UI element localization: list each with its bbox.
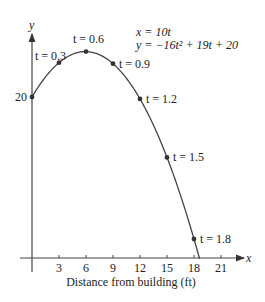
x-axis-letter: x	[245, 251, 252, 265]
x-tick-label: 9	[110, 261, 116, 275]
data-point	[138, 97, 143, 102]
x-tick-label: 6	[83, 261, 89, 275]
point-label: t = 1.8	[200, 232, 231, 246]
equation-x: x = 10t	[135, 25, 171, 39]
x-tick-label: 3	[56, 261, 62, 275]
equation-y: y = −16t² + 19t + 20	[135, 38, 238, 52]
point-label: t = 1.5	[173, 150, 204, 164]
y-axis-letter: y	[28, 18, 35, 32]
x-tick-label: 21	[215, 261, 227, 275]
data-point	[84, 49, 89, 54]
y-tick-label: 20	[15, 90, 27, 104]
x-tick-label: 18	[188, 261, 200, 275]
data-point	[192, 237, 197, 242]
data-points: t = 0.3t = 0.6t = 0.9t = 1.2t = 1.5t = 1…	[30, 32, 232, 246]
point-label: t = 0.6	[73, 32, 104, 46]
x-axis-label: Distance from building (ft)	[66, 275, 196, 289]
point-label: t = 0.3	[35, 49, 66, 63]
x-tick-label: 12	[134, 261, 146, 275]
point-label: t = 0.9	[119, 57, 150, 71]
trajectory-chart: y x 36912151821 20 t = 0.3t = 0.6t = 0.9…	[0, 0, 265, 302]
x-tick-label: 15	[161, 261, 173, 275]
data-point	[111, 61, 116, 66]
data-point	[30, 95, 35, 100]
data-point	[165, 155, 170, 160]
point-label: t = 1.2	[146, 92, 177, 106]
